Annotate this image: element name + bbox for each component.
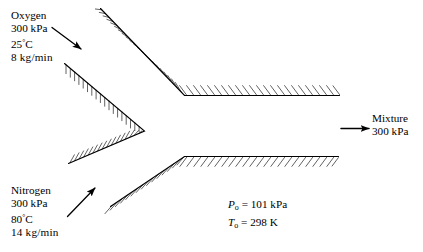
- oxygen-inlet-label: Oxygen 300 kPa 25°C 8 kg/min: [11, 9, 53, 65]
- mixing-duct-diagram: Oxygen 300 kPa 25°C 8 kg/min Nitrogen 30…: [0, 0, 423, 252]
- dead-state-annotation: Po = 101 kPa To = 298 K: [228, 197, 287, 234]
- pressure-symbol: P: [228, 198, 235, 210]
- duct-schematic-svg: [0, 0, 423, 252]
- temperature-value: = 298 K: [241, 216, 278, 228]
- oxygen-flow-rate: 8 kg/min: [11, 51, 53, 64]
- temperature-subscript: o: [234, 221, 238, 230]
- upper-outer-wall: [101, 9, 340, 96]
- oxygen-temp-unit: C: [25, 38, 32, 50]
- nitrogen-flow-rate: 14 kg/min: [11, 226, 58, 239]
- oxygen-pressure: 300 kPa: [11, 22, 53, 35]
- nitrogen-temperature: 80°C: [11, 211, 58, 227]
- oxygen-name: Oxygen: [11, 9, 53, 22]
- oxygen-temp-value: 25: [11, 38, 22, 50]
- pressure-value: = 101 kPa: [242, 198, 287, 210]
- lower-horizontal-hatching: [180, 157, 339, 166]
- mixture-outlet-label: Mixture 300 kPa: [372, 112, 408, 139]
- upper-horizontal-hatching: [180, 86, 340, 95]
- nitrogen-inlet-arrow: [68, 188, 96, 217]
- mixture-name: Mixture: [372, 112, 408, 125]
- pressure-subscript: o: [235, 203, 239, 212]
- dead-state-pressure: Po = 101 kPa: [228, 197, 287, 215]
- nitrogen-temp-unit: C: [25, 213, 32, 225]
- dead-state-temperature: To = 298 K: [228, 215, 287, 233]
- nitrogen-name: Nitrogen: [11, 184, 58, 197]
- nitrogen-temp-value: 80: [11, 213, 22, 225]
- oxygen-temperature: 25°C: [11, 36, 53, 52]
- oxygen-inlet-arrow: [52, 28, 81, 50]
- lower-outer-wall: [111, 157, 339, 207]
- center-splitter-wedge: [65, 64, 145, 164]
- mixture-pressure: 300 kPa: [372, 125, 408, 138]
- splitter-upper-arm-hatching: [66, 65, 139, 132]
- nitrogen-inlet-label: Nitrogen 300 kPa 80°C 14 kg/min: [11, 184, 58, 240]
- nitrogen-pressure: 300 kPa: [11, 197, 58, 210]
